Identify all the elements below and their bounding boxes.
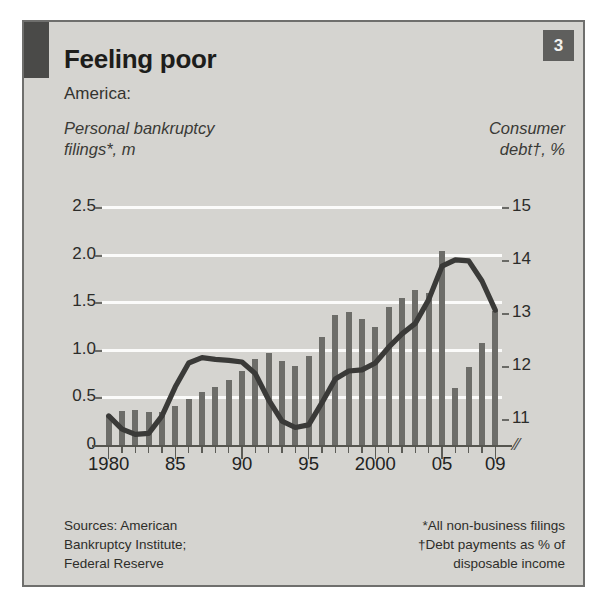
y-tick-label-left: 0.5	[72, 386, 96, 406]
y-tick-mark-right	[502, 207, 509, 209]
left-axis-title-line2: filings*, m	[64, 139, 214, 160]
x-tick-label: 09	[485, 453, 506, 475]
right-axis-title-line2: debt†, %	[489, 139, 565, 160]
x-tick-minor	[415, 447, 417, 453]
y-tick-label-left: 1.0	[72, 339, 96, 359]
y-tick-label-right: 12	[512, 355, 531, 375]
chart-subtitle: America:	[64, 84, 131, 104]
footnote-line-1: *All non-business filings	[418, 516, 565, 535]
right-axis-title-line1: Consumer	[489, 118, 565, 139]
plot-area: 00.51.01.52.02.5 1112131415 198085909520…	[102, 207, 502, 445]
x-tick-minor	[228, 447, 230, 453]
chart-number-badge: 3	[543, 30, 574, 61]
y-tick-mark-right	[502, 313, 509, 315]
right-axis-title: Consumer debt†, %	[489, 118, 565, 159]
y-tick-label-left: 1.5	[72, 291, 96, 311]
footnote-line-2: †Debt payments as % of	[418, 535, 565, 554]
x-tick-minor	[401, 447, 403, 453]
x-tick-minor	[455, 447, 457, 453]
line-series	[102, 207, 502, 445]
y-tick-label-left: 2.0	[72, 244, 96, 264]
x-tick-label: 05	[432, 453, 453, 475]
y-tick-mark-right	[502, 366, 509, 368]
x-tick-minor	[428, 447, 430, 453]
x-tick-minor	[135, 447, 137, 453]
y-tick-label-right: 15	[512, 196, 531, 216]
footnote-note: *All non-business filings †Debt payments…	[418, 516, 565, 573]
axis-break-icon: ⁄⁄	[514, 435, 520, 455]
x-tick-minor	[188, 447, 190, 453]
source-line-3: Federal Reserve	[64, 554, 186, 573]
x-tick-minor	[268, 447, 270, 453]
x-tick-minor	[481, 447, 483, 453]
x-tick-label: 95	[298, 453, 319, 475]
x-tick-minor	[148, 447, 150, 453]
y-tick-mark-right	[502, 260, 509, 262]
x-tick-minor	[468, 447, 470, 453]
x-tick-minor	[295, 447, 297, 453]
y-tick-label-right: 11	[512, 408, 530, 428]
x-tick-minor	[201, 447, 203, 453]
y-tick-label-right: 14	[512, 249, 531, 269]
corner-tab-decoration	[24, 22, 49, 78]
x-tick-label: 2000	[355, 453, 396, 475]
y-tick-label-right: 13	[512, 302, 531, 322]
x-tick-label: 85	[165, 453, 186, 475]
x-tick-label: 1980	[88, 453, 129, 475]
x-tick-minor	[321, 447, 323, 453]
left-axis-title-line1: Personal bankruptcy	[64, 118, 214, 139]
y-tick-mark-left	[95, 350, 102, 352]
chart-title: Feeling poor	[64, 44, 216, 75]
y-tick-label-left: 0	[87, 434, 96, 454]
source-note: Sources: American Bankruptcy Institute; …	[64, 516, 186, 573]
x-tick-label: 90	[232, 453, 253, 475]
x-tick-minor	[215, 447, 217, 453]
x-tick-minor	[348, 447, 350, 453]
x-tick-minor	[161, 447, 163, 453]
y-tick-mark-left	[95, 207, 102, 209]
y-tick-mark-left	[95, 255, 102, 257]
y-tick-mark-right	[502, 419, 509, 421]
source-line-2: Bankruptcy Institute;	[64, 535, 186, 554]
left-axis-title: Personal bankruptcy filings*, m	[64, 118, 214, 159]
y-tick-mark-left	[95, 302, 102, 304]
source-line-1: Sources: American	[64, 516, 186, 535]
y-tick-mark-left	[95, 397, 102, 399]
chart-panel: 3 Feeling poor America: Personal bankrup…	[22, 20, 585, 587]
x-tick-minor	[281, 447, 283, 453]
x-tick-minor	[335, 447, 337, 453]
y-tick-label-left: 2.5	[72, 196, 96, 216]
footnote-line-3: disposable income	[418, 554, 565, 573]
x-tick-minor	[255, 447, 257, 453]
